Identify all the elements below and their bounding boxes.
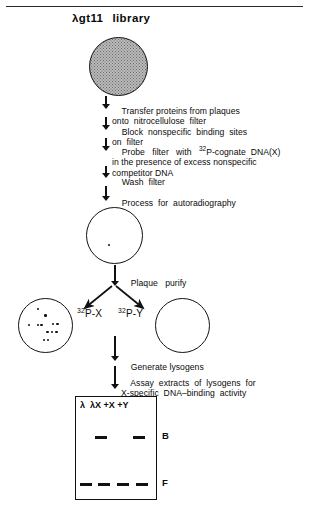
figure-title-word: library [112, 12, 150, 24]
plaque-dot [37, 324, 39, 326]
gel-band-F-lane2 [98, 483, 110, 486]
branch-arrow-left [85, 286, 112, 308]
plaque-dot [46, 331, 48, 333]
gel-row-label-B: B [162, 430, 169, 441]
plaque-dot [52, 323, 54, 325]
plaque-dot [55, 331, 57, 333]
figure-title: λgt11library [72, 12, 150, 24]
plaque-dot [44, 314, 46, 316]
top-divider-rule [6, 6, 303, 7]
figure-title-lambda: λ [72, 12, 79, 24]
autoradiograph-positive-signal-dot [108, 244, 110, 246]
isotope-label-left: 32P-X [77, 308, 102, 319]
gel-band-F-lane4 [136, 483, 148, 486]
gel-band-F-lane1 [80, 483, 92, 486]
figure-title-strain: gt11 [79, 12, 104, 24]
plaque-dot [40, 324, 42, 326]
arrow-to-probe-step [101, 138, 111, 152]
arrow-to-transfer-step [101, 96, 111, 110]
arrow-to-plaque-purify [110, 265, 120, 287]
plaque-dot [47, 339, 49, 341]
arrow-to-assay-step [110, 366, 120, 390]
isotope-label-right: 32P-Y [118, 308, 143, 319]
plaque-dot [28, 324, 30, 326]
branch-arrow-right [116, 286, 143, 308]
arrow-to-wash-step [101, 166, 111, 179]
gel-band-B-lane2 [95, 436, 107, 439]
plaque-dot [56, 323, 58, 325]
gel-band-B-lane4 [133, 436, 145, 439]
plaque-dot [37, 308, 39, 310]
positive-plaque-plate [18, 298, 73, 353]
arrow-to-block-step [101, 117, 111, 131]
figure-canvas: λgt11library Transfer proteins from plaq… [0, 0, 309, 512]
gel-lane-headers: λ λX +X +Y [80, 400, 129, 410]
gel-row-label-F: F [162, 477, 168, 488]
lambda-gt11-library-plate [89, 37, 148, 96]
plaque-dot [43, 339, 45, 341]
negative-plaque-plate [155, 298, 210, 353]
plaque-dot [51, 331, 53, 333]
arrow-to-generate-lysogens [110, 336, 120, 362]
arrow-to-autoradiography-step [101, 186, 111, 202]
gel-band-F-lane3 [117, 483, 129, 486]
autoradiograph-plate [86, 207, 143, 264]
